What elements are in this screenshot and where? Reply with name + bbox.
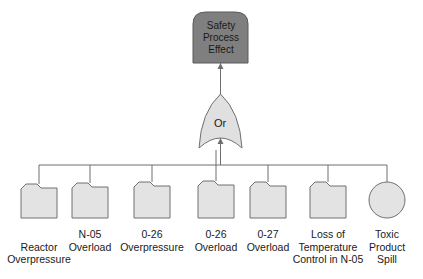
top-event-label: Safety Process Effect: [193, 20, 249, 56]
top-event-line1: Safety: [193, 20, 249, 32]
top-event-line2: Process: [193, 32, 249, 44]
event-label-line1: Loss of: [288, 228, 368, 241]
arrow-icon: [218, 138, 224, 144]
event-label-line2: Product: [362, 241, 412, 254]
event-node-027-overload[interactable]: [250, 182, 286, 218]
event-node-loss-temp-control[interactable]: [310, 182, 346, 218]
event-label-line1: Toxic: [362, 228, 412, 241]
gate-label: Or: [205, 117, 235, 129]
event-node-reactor-overpressure[interactable]: [21, 184, 57, 218]
event-node-026-overpressure[interactable]: [134, 182, 170, 218]
event-label-line3: Spill: [362, 253, 412, 266]
event-node-026-overload[interactable]: [198, 181, 234, 218]
event-label-line3: Overpressure: [112, 241, 192, 254]
event-label: 0-26 Overload: [186, 228, 246, 253]
event-label: Toxic Product Spill: [362, 228, 412, 266]
arrow-icon: [218, 63, 224, 69]
event-label-line3: Overload: [186, 241, 246, 254]
event-node-toxic-product-spill[interactable]: [369, 182, 405, 218]
event-label: N-05 Overload: [60, 228, 120, 253]
event-label-line3: Overload: [60, 241, 120, 254]
event-label-line2: N-05: [60, 228, 120, 241]
event-node-n05-overload[interactable]: [72, 183, 108, 218]
event-label-line2: 0-26: [186, 228, 246, 241]
event-label-line3: Control in N-05: [288, 253, 368, 266]
top-event-line3: Effect: [193, 44, 249, 56]
event-label-line2: Temperature: [288, 241, 368, 254]
event-label-line2: 0-26: [112, 228, 192, 241]
event-label: Loss of Temperature Control in N-05: [288, 228, 368, 266]
event-label-line3: Overpressure: [0, 253, 79, 266]
event-label: 0-26 Overpressure: [112, 228, 192, 253]
drop-lines: [39, 150, 387, 184]
